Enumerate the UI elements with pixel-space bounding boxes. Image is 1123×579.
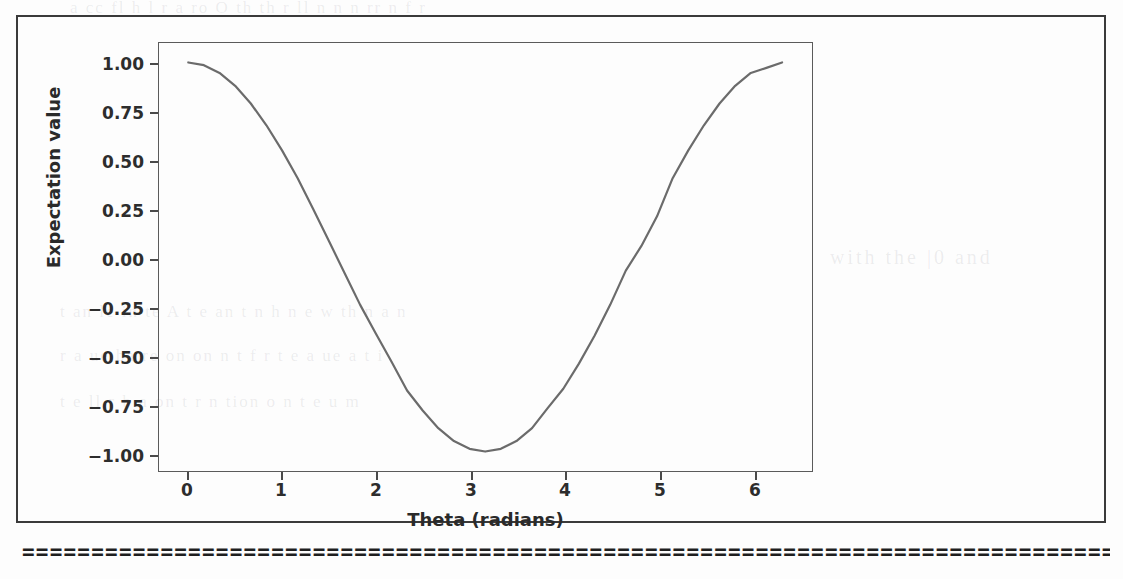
y-tick-mark — [150, 308, 158, 310]
plot-axes — [158, 42, 813, 472]
y-tick-mark — [150, 210, 158, 212]
equals-separator-rule: ========================================… — [22, 541, 1110, 563]
x-tick-label: 3 — [465, 480, 477, 500]
y-tick-label: 0.75 — [102, 103, 144, 123]
x-tick-label: 1 — [275, 480, 287, 500]
y-tick-label-group: 1.00 0.75 0.50 0.25 0.00 −0.25 −0.50 −0.… — [66, 42, 144, 472]
x-tick-label: 5 — [654, 480, 666, 500]
x-tick-mark — [755, 472, 757, 480]
x-tick-mark — [471, 472, 473, 480]
expectation-value-curve-svg — [159, 43, 812, 471]
y-tick-mark — [150, 63, 158, 65]
x-tick-label: 0 — [181, 480, 193, 500]
x-tick-mark — [660, 472, 662, 480]
x-tick-label: 4 — [559, 480, 571, 500]
y-tick-label: −1.00 — [88, 446, 144, 466]
x-tick-label: 6 — [749, 480, 761, 500]
y-tick-label: −0.25 — [88, 299, 144, 319]
x-tick-mark — [281, 472, 283, 480]
y-tick-mark — [150, 455, 158, 457]
x-tick-label: 2 — [370, 480, 382, 500]
figure-frame: Expectation value 1.00 0.75 0.50 0.25 0.… — [16, 15, 1106, 523]
y-tick-label: 1.00 — [102, 54, 144, 74]
y-tick-label: 0.00 — [102, 250, 144, 270]
y-tick-label: 0.50 — [102, 152, 144, 172]
y-tick-mark — [150, 112, 158, 114]
y-axis-label: Expectation value — [43, 83, 64, 273]
x-axis-label: Theta (radians) — [158, 509, 813, 530]
data-series-line — [188, 62, 782, 451]
y-tick-label: −0.75 — [88, 397, 144, 417]
x-tick-label-group: 0 1 2 3 4 5 6 — [158, 480, 813, 506]
y-tick-label: 0.25 — [102, 201, 144, 221]
y-tick-mark — [150, 259, 158, 261]
y-tick-mark — [150, 406, 158, 408]
x-tick-mark — [376, 472, 378, 480]
scanned-page: a cc fl h l r a ro O th th r ll n n n rr… — [0, 0, 1123, 579]
x-tick-mark — [565, 472, 567, 480]
y-tick-label: −0.50 — [88, 348, 144, 368]
y-tick-mark — [150, 357, 158, 359]
y-tick-mark — [150, 161, 158, 163]
x-tick-mark — [187, 472, 189, 480]
